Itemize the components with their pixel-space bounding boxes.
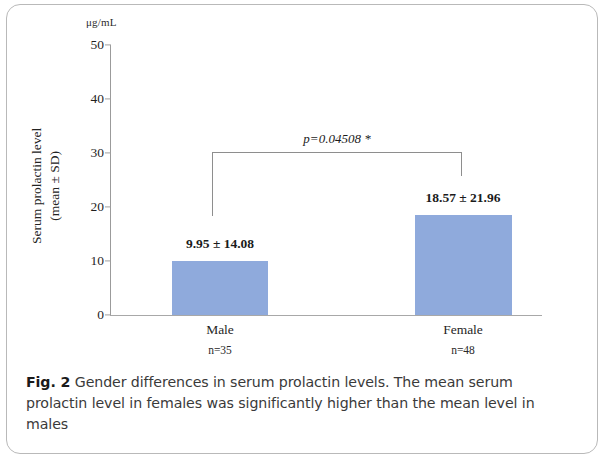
bar-female <box>415 215 512 315</box>
y-axis-title-line1: Serum prolactin level <box>29 128 44 244</box>
x-category-label-female: Female <box>443 322 483 338</box>
figure-card: μg/mL Serum prolactin level (mean ± SD) … <box>0 0 603 459</box>
x-category-label-male: Male <box>206 322 234 338</box>
y-tick-mark-50 <box>105 44 111 45</box>
bar-value-male: 9.95 ± 14.08 <box>186 236 254 252</box>
y-tick-label-40: 40 <box>56 91 104 107</box>
significance-bracket-top <box>212 152 462 153</box>
x-category-n-male: n=35 <box>208 344 232 356</box>
y-axis-line <box>110 45 111 316</box>
x-category-n-female: n=48 <box>451 344 475 356</box>
y-tick-mark-0 <box>105 314 111 315</box>
figure-caption: Fig. 2 Gender differences in serum prola… <box>26 372 578 435</box>
y-tick-label-30: 30 <box>56 145 104 161</box>
figure-number: Fig. 2 <box>26 374 70 390</box>
bar-male <box>172 261 268 315</box>
y-tick-label-10: 10 <box>56 253 104 269</box>
significance-bracket-right-arm <box>461 152 462 176</box>
chart-plot-area: μg/mL Serum prolactin level (mean ± SD) … <box>0 0 603 365</box>
y-tick-mark-30 <box>105 152 111 153</box>
y-tick-mark-20 <box>105 206 111 207</box>
significance-bracket-left-arm <box>212 152 213 216</box>
x-axis-line <box>110 315 542 316</box>
y-axis-unit-label: μg/mL <box>86 16 117 28</box>
figure-caption-text: Gender differences in serum prolactin le… <box>26 374 535 432</box>
y-tick-label-20: 20 <box>56 199 104 215</box>
p-value-annotation: p=0.04508 * <box>303 131 370 147</box>
bar-value-female: 18.57 ± 21.96 <box>426 190 501 206</box>
y-tick-label-0: 0 <box>56 307 104 323</box>
y-tick-mark-10 <box>105 260 111 261</box>
y-tick-mark-40 <box>105 98 111 99</box>
y-tick-label-50: 50 <box>56 37 104 53</box>
